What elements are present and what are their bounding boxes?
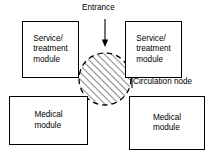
module-label: Medical module <box>153 113 181 134</box>
diagram-canvas: Service/ treatment module Service/ treat… <box>0 0 215 165</box>
entrance-label: Entrance <box>82 3 115 13</box>
entrance-arrow-head <box>102 40 108 48</box>
module-label: Medical module <box>34 110 62 131</box>
module-label: Service/ treatment module <box>33 34 68 66</box>
module-service-treatment-top-right[interactable]: Service/ treatment module <box>125 21 182 78</box>
module-medical-bottom-left[interactable]: Medical module <box>9 96 88 145</box>
module-label: Service/ treatment module <box>136 34 171 66</box>
circulation-node-label: Circulation node <box>133 77 192 87</box>
module-medical-bottom-right[interactable]: Medical module <box>129 96 205 150</box>
module-service-treatment-top-left[interactable]: Service/ treatment module <box>22 21 79 78</box>
